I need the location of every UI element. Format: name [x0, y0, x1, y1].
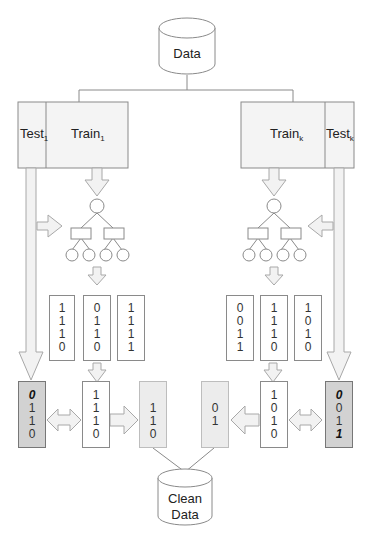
test1-to-tree-arrow-icon: [37, 215, 62, 237]
test1-down-arrow-icon: [19, 168, 43, 380]
traink-label: Traink: [270, 126, 303, 143]
traink-label-text: Train: [270, 126, 299, 141]
vector-value: 0: [59, 341, 66, 354]
vector-value: 1: [271, 415, 278, 428]
label-value: 1: [29, 415, 36, 428]
right-select-arrow-icon: [264, 363, 282, 382]
label-value: 0: [336, 402, 343, 415]
right-decision-tree-icon: [243, 199, 306, 261]
connector-line: [185, 448, 214, 472]
testk-down-arrow-icon: [327, 168, 351, 380]
left-prediction-vector-2: 0 1 1 0: [83, 295, 111, 361]
test1-label: Test1: [20, 126, 48, 143]
vector-value: 1: [271, 389, 278, 402]
label-value-mismatch: 0: [29, 389, 36, 402]
train1-label-subscript: 1: [100, 134, 104, 143]
traink-label-subscript: k: [299, 134, 303, 143]
left-select-arrow-icon: [88, 363, 106, 382]
left-compare-arrow-icon: [47, 409, 81, 431]
connector-line: [153, 448, 185, 472]
vector-value: 0: [305, 341, 312, 354]
left-decision-tree-icon: [66, 199, 129, 261]
vector-value: 1: [93, 389, 100, 402]
right-compare-arrow-icon: [289, 409, 322, 431]
vector-value: 1: [93, 402, 100, 415]
right-tree-output-arrow-icon: [265, 267, 283, 285]
train1-down-arrow-icon: [85, 168, 109, 196]
left-output-arrow-icon: [110, 406, 138, 434]
train1-label: Train1: [71, 126, 105, 143]
clean-data-label-line1: Clean: [158, 491, 212, 507]
result-value: 0: [212, 402, 219, 415]
vector-value: 0: [271, 428, 278, 441]
vector-value: 0: [271, 341, 278, 354]
result-value: 1: [150, 415, 157, 428]
result-value: 0: [150, 428, 157, 441]
testk-label-text: Test: [326, 126, 350, 141]
clean-data-label-line2: Data: [158, 507, 212, 523]
result-value: 1: [212, 415, 219, 428]
test1-label-text: Test: [20, 126, 44, 141]
label-value: 0: [29, 428, 36, 441]
vector-value: 1: [237, 341, 244, 354]
label-value: 1: [336, 415, 343, 428]
left-selected-vector: 1 1 1 0: [82, 381, 110, 448]
right-output-arrow-icon: [231, 406, 259, 434]
left-prediction-vector-3: 1 1 1 1: [117, 295, 145, 361]
right-clean-result: 0 1: [201, 381, 229, 448]
data-label: Data: [159, 46, 215, 62]
left-tree-output-arrow-icon: [88, 267, 106, 285]
label-value-mismatch: 0: [336, 389, 343, 402]
right-selected-vector: 1 0 1 0: [260, 381, 288, 448]
vector-value: 0: [93, 428, 100, 441]
testk-label-subscript: k: [350, 134, 354, 143]
vector-value: 1: [128, 341, 135, 354]
left-test-labels: 0 1 1 0: [18, 381, 46, 448]
vector-value: 0: [94, 341, 101, 354]
left-prediction-vector-1: 1 1 1 0: [49, 295, 75, 361]
label-value: 1: [29, 402, 36, 415]
vector-value: 1: [93, 415, 100, 428]
test1-label-subscript: 1: [44, 134, 48, 143]
train1-label-text: Train: [71, 126, 100, 141]
right-prediction-vector-2: 1 1 1 0: [260, 295, 288, 361]
left-clean-result: 1 1 0: [139, 381, 167, 448]
label-value-mismatch: 1: [336, 428, 343, 441]
right-prediction-vector-3: 1 0 1 0: [294, 295, 322, 361]
diagram-canvas: [0, 0, 370, 539]
testk-to-tree-arrow-icon: [308, 215, 333, 237]
clean-data-label: Clean Data: [158, 491, 212, 523]
right-test-labels: 0 0 1 1: [325, 381, 353, 448]
traink-down-arrow-icon: [262, 168, 286, 196]
right-prediction-vector-1: 0 0 1 1: [226, 295, 254, 361]
result-value: 1: [150, 402, 157, 415]
testk-label: Testk: [326, 126, 354, 143]
vector-value: 0: [271, 402, 278, 415]
